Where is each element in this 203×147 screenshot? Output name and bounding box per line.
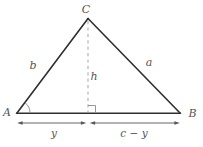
side-label-a: a <box>146 56 153 69</box>
arrow-left-icon <box>17 121 22 124</box>
triangle-altitude-diagram: A B C b a h y c − y <box>0 0 203 147</box>
side-label-b: b <box>29 59 36 72</box>
arrow-right-icon <box>81 121 86 124</box>
edge-BC <box>88 19 180 114</box>
angle-arc-A <box>25 103 30 113</box>
geometry-figure: A B C b a h y c − y <box>0 0 203 147</box>
segment-label-c-minus-y: c − y <box>120 127 148 139</box>
vertex-label-B: B <box>187 107 196 120</box>
right-angle-mark <box>88 106 96 113</box>
edge-AC <box>17 19 88 114</box>
arrow-left-icon <box>90 121 95 124</box>
vertex-label-A: A <box>2 106 11 119</box>
vertex-label-C: C <box>82 3 91 16</box>
segment-label-y: y <box>50 127 58 139</box>
arrow-right-icon <box>174 121 179 124</box>
altitude-label-h: h <box>90 70 97 83</box>
